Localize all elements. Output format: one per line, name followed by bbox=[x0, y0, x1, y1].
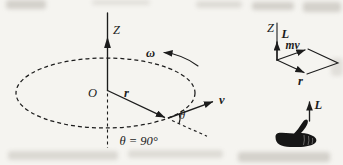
parallelogram-edges bbox=[307, 49, 338, 74]
angular-velocity-label: ω bbox=[146, 46, 155, 60]
z-axis-label: Z bbox=[113, 23, 121, 37]
cross-product-diagram: Z L mv r bbox=[267, 21, 338, 88]
radius-dashed-extension bbox=[172, 121, 207, 137]
position-vector-label: r bbox=[124, 86, 129, 100]
position-vector-arrow bbox=[108, 91, 165, 118]
momentum-vector-arrow bbox=[277, 50, 305, 60]
z-axis-label: Z bbox=[267, 21, 275, 35]
textbook-figure: Z ω O r v θ θ = 90° bbox=[0, 0, 343, 165]
angular-momentum-figure: Z ω O r v θ θ = 90° bbox=[0, 0, 343, 165]
theta-angle-label: θ bbox=[180, 109, 186, 121]
velocity-vector-label: v bbox=[219, 93, 225, 107]
position-vector-label: r bbox=[298, 74, 303, 88]
momentum-label: mv bbox=[286, 39, 301, 51]
position-vector-arrow bbox=[277, 60, 304, 73]
angular-velocity-arrow bbox=[164, 53, 198, 67]
origin-label: O bbox=[88, 86, 97, 100]
angle-value-text: θ = 90° bbox=[120, 134, 158, 148]
right-hand-rule-diagram: L bbox=[276, 98, 323, 148]
velocity-vector-arrow bbox=[169, 102, 213, 118]
right-hand-thumbs-up-icon bbox=[276, 119, 317, 147]
z-axis-arrowhead-icon bbox=[104, 37, 111, 49]
orbit-diagram: Z ω O r v θ θ = 90° bbox=[16, 13, 225, 148]
angular-momentum-label: L bbox=[314, 98, 323, 112]
